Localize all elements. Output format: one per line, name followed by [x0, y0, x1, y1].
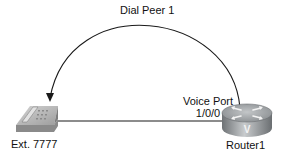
diagram-canvas: V Dial Peer 1 Voice Port 1/0/0 Ext. 7777… [0, 0, 285, 156]
phone-extension-label: Ext. 7777 [11, 138, 57, 150]
phone-icon [16, 106, 58, 132]
dial-peer-label: Dial Peer 1 [120, 4, 174, 16]
voice-port-number: 1/0/0 [176, 107, 240, 119]
router-label: Router1 [226, 139, 265, 151]
arrowhead-icon [46, 93, 54, 102]
diagram-graphics: V [0, 0, 285, 156]
voice-port-name: Voice Port [176, 95, 240, 107]
voice-port-label: Voice Port 1/0/0 [176, 95, 240, 119]
router-voice-badge: V [244, 124, 251, 135]
